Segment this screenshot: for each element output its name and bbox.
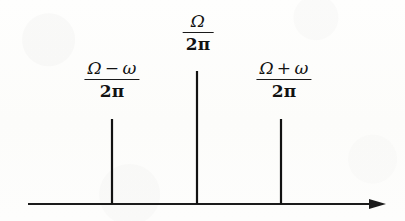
plus-sign-glyph: + — [274, 58, 295, 78]
omega-lowercase-glyph: ω — [294, 58, 308, 78]
spectrum-figure: Ω−ω 2π Ω 2π Ω+ω 2π — [0, 0, 405, 221]
label-lower-sideband-denominator: 2π — [83, 80, 140, 100]
label-upper-sideband-denominator: 2π — [255, 80, 312, 100]
label-carrier-numerator: Ω — [182, 13, 215, 32]
label-upper-sideband: Ω+ω 2π — [255, 60, 312, 100]
label-carrier: Ω 2π — [182, 13, 215, 53]
omega-capital-glyph: Ω — [191, 11, 205, 31]
omega-capital-glyph: Ω — [87, 58, 101, 78]
label-lower-sideband-numerator: Ω−ω — [83, 60, 140, 79]
omega-capital-glyph: Ω — [259, 58, 273, 78]
minus-sign-glyph: − — [102, 58, 123, 78]
label-lower-sideband: Ω−ω 2π — [83, 60, 140, 100]
label-carrier-denominator: 2π — [182, 33, 215, 53]
axis-arrowhead-icon — [369, 199, 386, 209]
omega-lowercase-glyph: ω — [122, 58, 136, 78]
label-upper-sideband-numerator: Ω+ω — [255, 60, 312, 79]
